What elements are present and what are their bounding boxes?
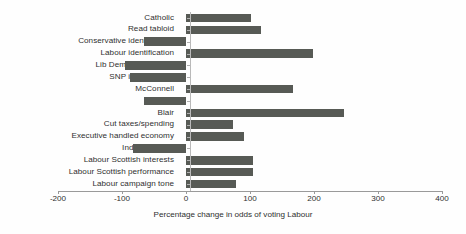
- y-axis-tick: [187, 137, 190, 138]
- bar: [144, 97, 186, 106]
- y-axis-tick: [187, 172, 190, 173]
- y-axis-tick: [187, 160, 190, 161]
- bar-chart: CatholicRead tabloidConservative identif…: [0, 0, 466, 234]
- x-axis-title: Percentage change in odds of voting Labo…: [0, 210, 466, 219]
- bar: [125, 61, 186, 70]
- x-axis-tick-label: 100: [243, 194, 257, 203]
- bar: [186, 168, 253, 177]
- y-axis-tick: [187, 113, 190, 114]
- y-axis-tick: [187, 42, 190, 43]
- bar: [186, 85, 293, 94]
- x-axis-tick-label: 200: [307, 194, 321, 203]
- y-axis-tick: [187, 65, 190, 66]
- bar: [144, 37, 186, 46]
- bar: [186, 109, 344, 118]
- bar: [130, 73, 186, 82]
- bar: [186, 180, 236, 189]
- x-axis-tick-label: -200: [50, 194, 66, 203]
- y-axis-tick: [187, 101, 190, 102]
- bar: [186, 132, 244, 141]
- plot-area: [58, 12, 442, 190]
- y-axis-tick: [187, 89, 190, 90]
- x-axis-tick-label: -100: [114, 194, 130, 203]
- y-axis-tick: [187, 30, 190, 31]
- x-axis-tick-label: 0: [184, 194, 189, 203]
- bar: [186, 14, 251, 23]
- bar: [133, 144, 186, 153]
- x-axis-tick-label: 300: [371, 194, 385, 203]
- y-axis-tick: [187, 148, 190, 149]
- y-axis-tick: [187, 184, 190, 185]
- y-axis-tick: [187, 54, 190, 55]
- bar: [186, 49, 313, 58]
- x-axis-tick-label: 400: [435, 194, 449, 203]
- y-axis-tick: [187, 77, 190, 78]
- y-axis-tick: [187, 18, 190, 19]
- bar: [186, 156, 253, 165]
- y-axis-tick: [187, 125, 190, 126]
- zero-reference-line: [190, 12, 191, 191]
- bar: [186, 26, 261, 35]
- bar: [186, 120, 233, 129]
